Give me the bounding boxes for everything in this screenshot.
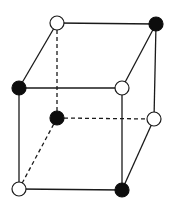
cube-diagram [0, 0, 171, 213]
hidden-edge-back-bottom-left-to-back-bottom-right [57, 118, 154, 119]
vertex-filled-back-top-right [149, 17, 163, 31]
vertex-open-front-top-right [115, 81, 129, 95]
vertex-filled-front-bottom-right [115, 183, 129, 197]
vertex-open-back-bottom-right [147, 112, 161, 126]
edge-back-top-right-to-back-bottom-right [154, 24, 156, 119]
vertex-filled-front-top-left [12, 81, 26, 95]
cube-edges [19, 23, 156, 190]
vertex-open-back-top-left [50, 16, 64, 30]
edge-front-bottom-left-to-front-bottom-right [19, 189, 122, 190]
edge-back-top-right-to-front-top-right [122, 24, 156, 88]
edge-back-top-left-to-back-top-right [57, 23, 156, 24]
cube-vertices [12, 16, 163, 197]
vertex-open-front-bottom-left [12, 182, 26, 196]
edge-back-top-left-to-front-top-left [19, 23, 57, 88]
hidden-edge-back-bottom-left-to-front-bottom-left [19, 118, 57, 189]
vertex-filled-back-bottom-left [50, 111, 64, 125]
edge-back-bottom-right-to-front-bottom-right [122, 119, 154, 190]
